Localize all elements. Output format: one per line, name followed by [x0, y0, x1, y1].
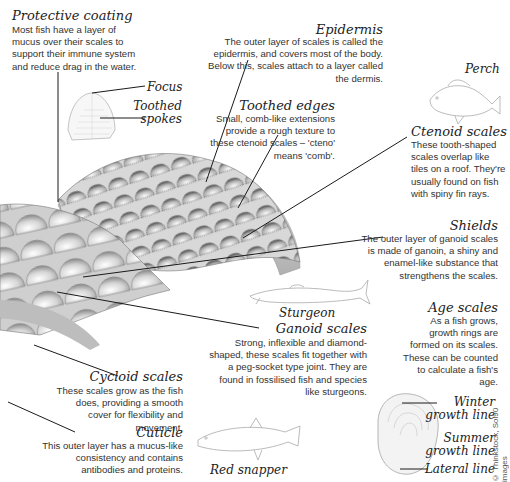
shields-text: The outer layer of ganoid scales is made… [358, 233, 498, 282]
epidermis-text: The outer layer of scales is called the … [199, 36, 383, 85]
red-snapper-label: Red snapper [210, 463, 287, 477]
age-scales-text: As a fish grows, growth rings are formed… [400, 315, 498, 388]
ctenoid-scales-title: Ctenoid scales [411, 124, 507, 139]
fish-scales-diagram: Protective coating Most fish have a laye… [0, 0, 510, 482]
cycloid-scales-title: Cycloid scales [90, 369, 183, 384]
ctenoid-scales-text: These tooth-shaped scales overlap like t… [411, 139, 509, 200]
epidermis-title: Epidermis [316, 22, 383, 37]
ganoid-scales-title: Ganoid scales [276, 321, 367, 336]
toothed-edges-title: Toothed edges [239, 98, 335, 113]
red-snapper-illustration [198, 418, 300, 460]
cuticle-text: This outer layer has a mucus-like consis… [33, 440, 183, 477]
ganoid-scales-text: Strong, inflexible and diamond-shaped, t… [209, 337, 367, 398]
toothed-spokes-label: Toothed spokes [112, 100, 182, 126]
protective-coating-title: Protective coating [12, 8, 132, 23]
protective-coating-text: Most fish have a layer of mucus over the… [12, 24, 142, 73]
shields-title: Shields [450, 218, 498, 233]
toothed-edges-text: Small, comb-like extensions provide a ro… [207, 113, 335, 162]
perch-illustration [430, 80, 500, 124]
cuticle-title: Cuticle [136, 425, 183, 440]
sturgeon-label: Sturgeon [279, 306, 335, 320]
summer-growth-line-label: Summer growth line [425, 432, 495, 458]
image-credit: © Thinkstock, Sol90 images [491, 398, 509, 482]
focus-label: Focus [147, 80, 183, 95]
winter-growth-line-label: Winter growth line [425, 396, 495, 422]
winter-line2: growth line [425, 409, 495, 422]
single-scale-sketch [68, 93, 115, 140]
age-scales-title: Age scales [428, 300, 498, 315]
lateral-line-label: Lateral line [425, 462, 495, 477]
summer-line2: growth line [425, 445, 495, 458]
sturgeon-illustration [250, 280, 370, 304]
perch-label: Perch [465, 62, 500, 76]
